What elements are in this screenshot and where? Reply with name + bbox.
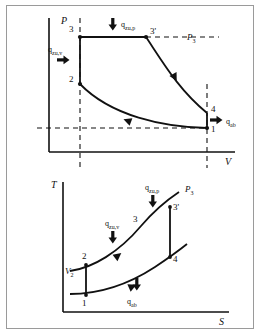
pv-q-zu-p-label: qzu,p <box>121 20 135 31</box>
ts-x-axis-label: S <box>219 316 224 327</box>
ts-point-2-marker <box>84 263 88 267</box>
ts-diagram-svg: T S 2 1 3 3' 4 V2 P3 qzu,p <box>7 164 255 330</box>
ts-v2-label: V2 <box>65 266 74 278</box>
pv-point-2-marker <box>78 82 82 86</box>
ts-state-point-markers <box>84 205 172 297</box>
pv-point-1-marker <box>205 126 209 130</box>
pv-state-point-markers <box>78 35 209 130</box>
pv-point-2-label: 2 <box>69 74 74 84</box>
pv-y-axis-label: P <box>60 15 67 26</box>
pv-q-zu-v-label: qzu,v <box>48 45 62 56</box>
ts-point-3-label: 3 <box>133 214 138 224</box>
ts-point-3prime-label: 3' <box>173 202 180 212</box>
pv-q-zu-v-annotation: qzu,v <box>48 45 70 64</box>
ts-point-3prime-marker <box>168 205 172 209</box>
ts-q-zu-p-annotation: qzu,p <box>145 183 159 208</box>
ts-q-zu-v-label: qzu,v <box>105 219 119 230</box>
pv-q-ab-label: qab <box>226 117 236 128</box>
pv-compression-arrow-icon <box>122 116 132 126</box>
ts-q-zu-v-arrow-down-icon <box>109 231 118 244</box>
ts-q-zu-p-label: qzu,p <box>145 183 159 194</box>
pv-q-zu-p-arrow-down-icon <box>109 18 118 31</box>
pv-q-zu-v-arrow-right-icon <box>57 56 70 65</box>
ts-point-4-marker <box>168 255 172 259</box>
pv-q-ab-arrow-right-icon <box>210 116 223 125</box>
pv-q-zu-p-annotation: qzu,p <box>109 18 136 31</box>
ts-q-ab-label: qab <box>127 297 137 308</box>
pv-point-1-label: 1 <box>211 124 216 134</box>
ts-y-axis-label: T <box>51 179 58 190</box>
pv-point-3prime-label: 3' <box>150 26 157 36</box>
pv-cycle-path <box>80 37 207 128</box>
figure-frame: P V 3 2 3' 4 1 P3 qzu,p <box>6 5 254 329</box>
pv-point-3-marker <box>78 35 82 39</box>
ts-p3-label: P3 <box>184 184 194 196</box>
ts-point-1-label: 1 <box>82 298 87 308</box>
ts-q-zu-v-annotation: qzu,v <box>105 219 119 244</box>
pv-diagram-svg: P V 3 2 3' 4 1 P3 qzu,p <box>7 6 255 174</box>
ts-point-1-marker <box>84 293 88 297</box>
pv-p3-label-group: P3 <box>186 32 196 44</box>
pv-point-4-label: 4 <box>211 104 216 114</box>
pv-process-1-2 <box>80 84 207 128</box>
ts-point-4-label: 4 <box>173 254 178 264</box>
pv-p3-label: P3 <box>186 32 196 44</box>
pv-direction-arrows <box>122 72 180 126</box>
ts-q-ab-annotation: qab <box>127 278 141 308</box>
ts-q-zu-p-arrow-down-icon <box>149 195 158 208</box>
pv-point-3-label: 3 <box>69 24 74 34</box>
ts-diagram-panel: T S 2 1 3 3' 4 V2 P3 qzu,p <box>7 164 253 330</box>
pv-point-3prime-marker <box>144 35 148 39</box>
ts-point-2-label: 2 <box>82 251 87 261</box>
